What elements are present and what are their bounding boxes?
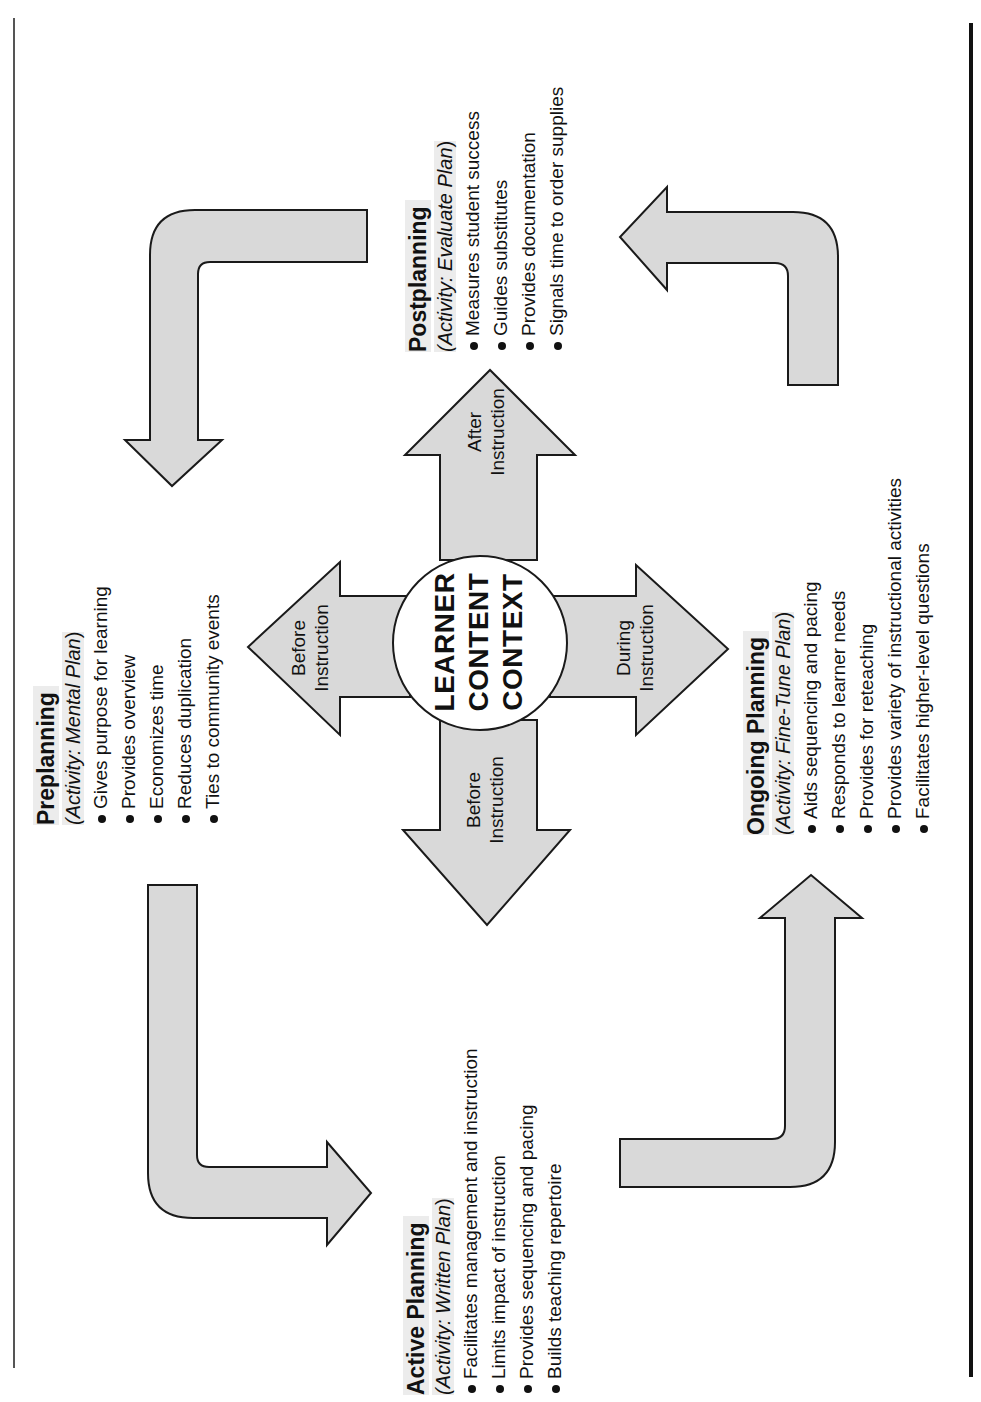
stage-title: Active Planning	[403, 1048, 430, 1395]
stage-activity: (Activity: Mental Plan)	[60, 586, 87, 825]
stage-bullets: Measures student success Guides substitu…	[459, 87, 571, 352]
cross-label-left: Before Instruction	[287, 583, 333, 713]
stage-title: Postplanning	[405, 87, 432, 352]
stage-active-planning: Active Planning (Activity: Written Plan)…	[403, 1048, 569, 1395]
bullet-item: Facilitates management and instruction	[457, 1048, 485, 1395]
stage-bullets: Gives purpose for learning Provides over…	[87, 586, 227, 825]
center-label: LEARNER CONTENT CONTEXT	[428, 557, 530, 727]
stage-bullets: Facilitates management and instruction L…	[457, 1048, 569, 1395]
bullet-item: Signals time to order supplies	[543, 87, 571, 352]
stage-activity: (Activity: Written Plan)	[430, 1048, 457, 1395]
stage-preplanning: Preplanning (Activity: Mental Plan) Give…	[33, 586, 227, 825]
cycle-arrow-pre-to-active	[148, 885, 371, 1245]
stage-title: Preplanning	[33, 586, 60, 825]
bullet-item: Economizes time	[143, 586, 171, 825]
bullet-item: Reduces duplication	[171, 586, 199, 825]
bullet-item: Provides overview	[115, 586, 143, 825]
stage-title: Ongoing Planning	[743, 478, 770, 835]
bullet-item: Provides for reteaching	[853, 478, 881, 835]
bullet-item: Builds teaching repertoire	[541, 1048, 569, 1395]
bullet-item: Measures student success	[459, 87, 487, 352]
bullet-item: Guides substitutes	[487, 87, 515, 352]
cross-label-down: Before Instruction	[462, 735, 508, 865]
bullet-item: Provides documentation	[515, 87, 543, 352]
bullet-item: Limits impact of instruction	[485, 1048, 513, 1395]
bullet-item: Gives purpose for learning	[87, 586, 115, 825]
center-line-learner: LEARNER	[428, 557, 462, 727]
center-line-context: CONTEXT	[496, 557, 530, 727]
cross-label-up: After Instruction	[463, 372, 509, 492]
bullet-item: Aids sequencing and pacing	[797, 478, 825, 835]
bullet-item: Provides variety of instructional activi…	[881, 478, 909, 835]
cycle-arrow-ongoing-to-post	[620, 187, 838, 385]
stage-postplanning: Postplanning (Activity: Evaluate Plan) M…	[405, 87, 571, 352]
cross-label-right: During Instruction	[612, 583, 658, 713]
stage-ongoing-planning: Ongoing Planning (Activity: Fine-Tune Pl…	[743, 478, 937, 835]
cycle-arrow-active-to-ongoing	[620, 875, 862, 1187]
stage-activity: (Activity: Fine-Tune Plan)	[770, 478, 797, 835]
bullet-item: Provides sequencing and pacing	[513, 1048, 541, 1395]
center-line-content: CONTENT	[462, 557, 496, 727]
stage-activity: (Activity: Evaluate Plan)	[432, 87, 459, 352]
bullet-item: Facilitates higher-level questions	[909, 478, 937, 835]
bullet-item: Ties to community events	[199, 586, 227, 825]
stage-bullets: Aids sequencing and pacing Responds to l…	[797, 478, 937, 835]
bullet-item: Responds to learner needs	[825, 478, 853, 835]
cycle-arrow-post-to-pre	[125, 210, 367, 486]
